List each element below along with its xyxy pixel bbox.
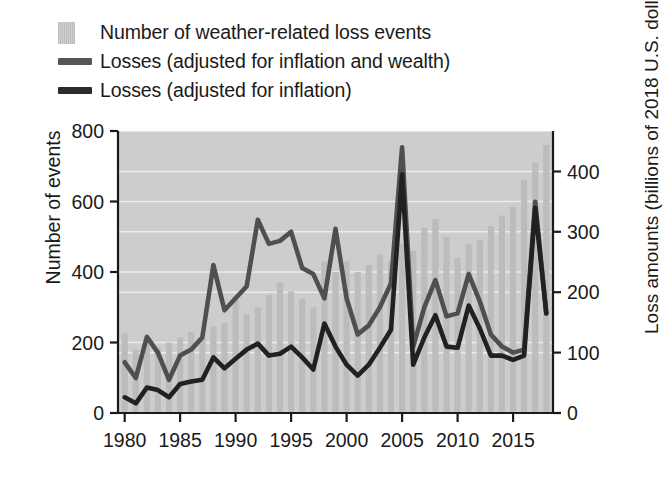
y-left-tick-label: 600 (71, 191, 104, 213)
y-left-tick-label: 800 (71, 120, 104, 142)
bar-1991 (244, 314, 250, 413)
chart-plot: 0200400600800010020030040019801985199019… (0, 0, 670, 496)
x-tick-label: 2010 (436, 429, 480, 451)
bar-1994 (277, 283, 283, 413)
x-tick-label: 1990 (214, 429, 258, 451)
x-tick-label: 2000 (325, 429, 369, 451)
bar-1995 (288, 291, 294, 413)
chart-figure: Number of weather-related loss events Lo… (0, 0, 670, 496)
y-right-tick-label: 300 (567, 221, 600, 243)
bar-2014 (499, 216, 505, 413)
bar-1985 (177, 337, 183, 413)
bar-2005 (399, 244, 405, 413)
bar-2001 (355, 272, 361, 413)
y-left-tick-label: 400 (71, 261, 104, 283)
y-left-tick-label: 0 (93, 402, 104, 424)
bar-1988 (210, 327, 216, 413)
x-tick-label: 1995 (269, 429, 313, 451)
bar-2003 (377, 254, 383, 413)
bar-2015 (510, 207, 516, 413)
bar-1992 (255, 307, 261, 413)
bar-1982 (144, 344, 150, 413)
bar-2011 (466, 244, 472, 413)
x-tick-label: 2015 (491, 429, 535, 451)
y-right-tick-label: 200 (567, 281, 600, 303)
x-tick-label: 1980 (103, 429, 147, 451)
bar-1980 (122, 334, 128, 413)
y-right-tick-label: 0 (567, 402, 578, 424)
x-tick-label: 1985 (158, 429, 202, 451)
bar-2013 (488, 226, 494, 413)
bar-2002 (366, 265, 372, 413)
bar-2009 (443, 237, 449, 413)
y-right-tick-label: 400 (567, 161, 600, 183)
y-right-tick-label: 100 (567, 342, 600, 364)
y-left-tick-label: 200 (71, 332, 104, 354)
x-tick-label: 2005 (380, 429, 424, 451)
